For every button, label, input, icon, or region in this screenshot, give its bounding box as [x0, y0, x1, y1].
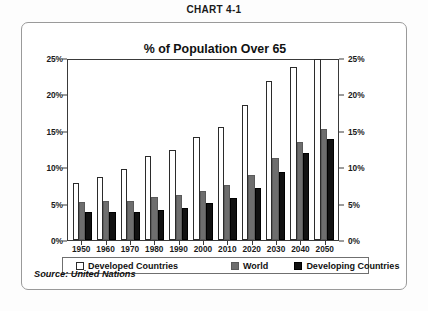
bar-developing [134, 212, 140, 240]
bar-developing [182, 208, 188, 240]
bar-developing [230, 198, 236, 240]
bar-developing [206, 203, 212, 240]
x-tick-label: 2020 [240, 244, 264, 254]
legend-label: World [243, 261, 268, 271]
y-tick-mark-right [339, 241, 344, 242]
x-tick-label: 2030 [264, 244, 288, 254]
bar-group [94, 60, 118, 240]
bar-group [288, 60, 312, 240]
y-tick-mark-right [339, 131, 344, 132]
bar-developing [109, 212, 115, 240]
legend-swatch-developing-icon [294, 262, 302, 270]
bar-developing [255, 188, 261, 240]
bar-developing [158, 210, 164, 240]
legend-item[interactable]: Developing Countries [294, 261, 399, 271]
legend-label: Developing Countries [306, 261, 399, 271]
legend-item[interactable]: World [231, 261, 268, 271]
x-tick-label: 1980 [142, 244, 166, 254]
y-tick-mark-right [339, 168, 344, 169]
plot-wrapper: 0%5%10%15%20%25% 0%5%10%15%20%25% 195019… [22, 23, 408, 291]
y-tick-mark-right [339, 95, 344, 96]
bar-group [143, 60, 167, 240]
x-tick-label: 2010 [215, 244, 239, 254]
x-tick-label: 1950 [69, 244, 93, 254]
chart-caption-text: CHART 4-1 [187, 4, 242, 15]
x-axis-labels: 1950196019701980199020002010202020302040… [67, 244, 339, 254]
bar-developing [303, 153, 309, 240]
y-axis-right-labels: 0%5%10%15%20%25% [342, 59, 382, 241]
y-tick-label-right: 5% [348, 200, 360, 210]
x-tick-label: 1960 [93, 244, 117, 254]
y-tick-label-right: 0% [348, 236, 360, 246]
x-tick-label: 2040 [288, 244, 312, 254]
bar-group [264, 60, 288, 240]
y-tick-mark-right [339, 204, 344, 205]
y-tick-label-left: 20% [46, 90, 63, 100]
y-tick-label-left: 15% [46, 127, 63, 137]
bar-developing [327, 139, 333, 240]
bar-group [312, 60, 336, 240]
bar-group [191, 60, 215, 240]
chart-frame: % of Population Over 65 0%5%10%15%20%25%… [21, 22, 407, 290]
x-tick-label: 1970 [118, 244, 142, 254]
x-tick-label: 2050 [313, 244, 337, 254]
y-tick-label-right: 25% [348, 54, 365, 64]
bar-group [239, 60, 263, 240]
bar-group [215, 60, 239, 240]
bar-groups [68, 60, 338, 240]
y-tick-mark-right [339, 59, 344, 60]
bar-developing [279, 172, 285, 240]
legend-swatch-world-icon [231, 262, 239, 270]
y-axis-left-labels: 0%5%10%15%20%25% [23, 59, 63, 241]
bar-group [167, 60, 191, 240]
y-axis-right-ticks [339, 59, 344, 241]
plot-area [67, 59, 339, 241]
bar-group [118, 60, 142, 240]
y-tick-label-right: 10% [348, 163, 365, 173]
x-tick-label: 1990 [166, 244, 190, 254]
chart-caption: CHART 4-1 [0, 4, 428, 15]
bar-developing [85, 212, 91, 240]
y-tick-label-right: 15% [348, 127, 365, 137]
y-tick-label-right: 20% [348, 90, 365, 100]
x-tick-label: 2000 [191, 244, 215, 254]
y-tick-label-left: 25% [46, 54, 63, 64]
y-tick-label-left: 10% [46, 163, 63, 173]
source-note: Source: United Nations [34, 269, 136, 279]
bar-group [70, 60, 94, 240]
